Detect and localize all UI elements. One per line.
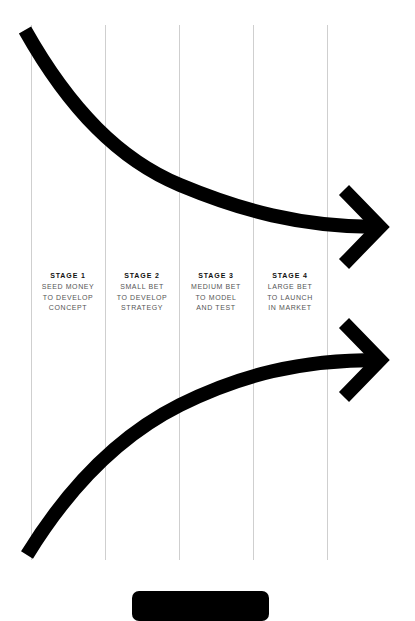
stage-desc-line: CONCEPT [31,303,105,314]
stage-desc-line: IN MARKET [253,303,327,314]
stage-desc-line: TO DEVELOP [105,293,179,304]
ascending-arrow-icon [27,323,380,555]
stage-desc-line: TO MODEL [179,293,253,304]
bottom-button[interactable] [132,591,269,621]
stage-desc-line: SMALL BET [105,282,179,293]
stage-title: STAGE 1 [31,271,105,282]
stage-4-label: STAGE 4 LARGE BET TO LAUNCH IN MARKET [253,271,327,314]
stage-2-label: STAGE 2 SMALL BET TO DEVELOP STRATEGY [105,271,179,314]
stage-desc-line: SEED MONEY [31,282,105,293]
stage-1-label: STAGE 1 SEED MONEY TO DEVELOP CONCEPT [31,271,105,314]
stage-desc-line: STRATEGY [105,303,179,314]
stage-desc-line: AND TEST [179,303,253,314]
stage-desc-line: TO DEVELOP [31,293,105,304]
stage-title: STAGE 3 [179,271,253,282]
stage-title: STAGE 4 [253,271,327,282]
stage-desc-line: MEDIUM BET [179,282,253,293]
stage-desc-line: LARGE BET [253,282,327,293]
stage-3-label: STAGE 3 MEDIUM BET TO MODEL AND TEST [179,271,253,314]
stage-title: STAGE 2 [105,271,179,282]
stage-desc-line: TO LAUNCH [253,293,327,304]
descending-arrow-icon [25,30,380,264]
